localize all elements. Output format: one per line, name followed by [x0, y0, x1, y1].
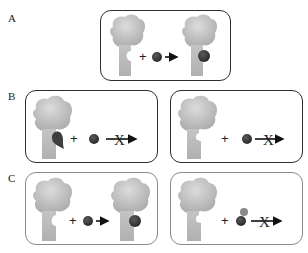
- bound-ligand-icon: [129, 215, 141, 227]
- panel-a-illustration: +: [101, 11, 232, 82]
- blocked-x-mark: X: [114, 132, 125, 148]
- plus-sign: +: [139, 49, 147, 64]
- receptor-open-pocket-icon: [33, 178, 72, 241]
- bound-ligand-icon: [198, 50, 210, 62]
- panel-label-c: C: [8, 172, 15, 184]
- ligand-icon: [83, 216, 93, 226]
- plus-sign: +: [221, 213, 229, 228]
- panel-label-b: B: [8, 90, 15, 102]
- panel-c-right: + X: [170, 172, 303, 245]
- plus-sign: +: [70, 131, 78, 146]
- receptor-open-pocket-icon: [178, 178, 217, 241]
- panel-a: +: [100, 10, 231, 81]
- modified-ligand-icon: [236, 208, 248, 226]
- modification-group-icon: [240, 208, 248, 216]
- ligand-icon: [242, 134, 252, 144]
- receptor-bound-icon: [111, 178, 150, 241]
- panel-label-a: A: [8, 12, 16, 24]
- panel-c-left: +: [25, 172, 158, 245]
- ligand-icon: [152, 52, 162, 62]
- panel-b-right: + X: [170, 90, 303, 163]
- plus-sign: +: [69, 213, 77, 228]
- receptor-open-pocket-icon: [110, 15, 145, 76]
- panel-b-left: + X: [25, 90, 158, 163]
- blocked-x-mark: X: [259, 214, 270, 230]
- ligand-icon: [89, 134, 99, 144]
- receptor-bound-icon: [182, 15, 217, 76]
- plus-sign: +: [221, 131, 229, 146]
- receptor-occupied-pocket-icon: [33, 96, 72, 159]
- blocked-x-mark: X: [263, 132, 274, 148]
- receptor-altered-pocket-icon: [178, 96, 217, 159]
